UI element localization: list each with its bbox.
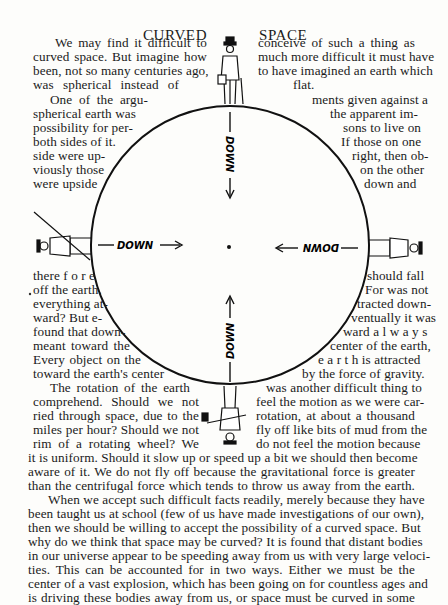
text-line: was spherical instead of: [33, 78, 179, 92]
man-left-side-icon: [34, 212, 91, 260]
text-line: One of the argu-: [50, 93, 148, 107]
text-line: side were up-: [33, 149, 105, 163]
text-line: much more difficult it must have: [258, 50, 415, 64]
text-line: viously those: [33, 163, 99, 177]
text-line: found that down-: [33, 325, 113, 339]
text-line: ried through space, due to the: [33, 409, 199, 423]
text-line: why do we think that space may be curved…: [28, 535, 415, 549]
text-line: ties. This can be accounted for in two w…: [28, 563, 415, 577]
text-line: in our universe appear to be speeding aw…: [28, 549, 415, 563]
text-line: Every object on the: [33, 353, 141, 367]
text-line: everything at-: [33, 297, 102, 311]
text-line: When we accept such difficult facts read…: [48, 493, 415, 507]
text-line: on the other: [360, 163, 415, 177]
text-line: there f o r e: [33, 269, 90, 283]
text-line: comprehend. Should we not: [33, 395, 199, 409]
text-line: If those on one: [341, 135, 415, 149]
text-line: For was not: [365, 283, 415, 297]
text-line: conceive of such a thing as: [258, 36, 415, 50]
down-label-left: DOWN: [117, 240, 154, 251]
down-arrow-top: DOWN: [224, 112, 235, 198]
man-standing-top-icon: [218, 37, 243, 104]
text-line: it is uniform. Should it slow up or spee…: [28, 451, 415, 465]
down-label-right: DOWN: [302, 242, 339, 253]
text-line: center of the earth,: [330, 339, 415, 353]
text-line: to have imagined an earth which: [258, 64, 415, 78]
text-line: e a r t h is attracted: [318, 353, 415, 367]
text-line: flat.: [293, 78, 323, 92]
text-line: The rotation of the earth: [50, 381, 190, 395]
text-line: miles per hour? Should we not: [33, 423, 199, 437]
text-line: been, not so many centuries ago,: [33, 64, 207, 78]
text-line: do not feel the motion because: [256, 437, 415, 451]
center-dot: [227, 245, 231, 249]
text-line: ward a l w a y s: [343, 325, 415, 339]
text-line: been taught us at school (few of us have…: [28, 507, 415, 521]
text-line: spherical earth was: [33, 107, 131, 121]
text-line: the apparent im-: [330, 107, 415, 121]
down-arrow-bottom: DOWN: [225, 296, 236, 382]
text-line: both sides of it.: [33, 135, 113, 149]
down-arrow-right: DOWN: [276, 242, 358, 253]
text-line: aware of it. We do not fly off because t…: [28, 465, 415, 479]
man-right-side-icon: [369, 238, 422, 258]
text-line: We may find it difficult to: [55, 36, 207, 50]
text-line: tracted down-: [357, 297, 415, 311]
text-line: off the earth.: [33, 283, 98, 297]
text-line: curved space. But imagine how: [33, 50, 207, 64]
text-line: feel the motion as we were car-: [256, 395, 415, 409]
text-line: fly off like bits of mud from the: [256, 423, 415, 437]
text-line: is driving these bodies away from us, or…: [28, 591, 415, 605]
text-line: possibility for per-: [33, 121, 119, 135]
text-line: than the centrifugal force which tends t…: [28, 479, 415, 493]
text-line: right, then ob-: [352, 149, 415, 163]
text-line: then we should be willing to accept the …: [28, 521, 415, 535]
down-label-bottom: DOWN: [225, 322, 236, 359]
text-line: toward the earth's center: [33, 367, 148, 381]
text-line: was another difficult thing to: [266, 381, 415, 395]
text-line: ward? But e-: [33, 311, 101, 325]
text-line: by the force of gravity.: [302, 367, 415, 381]
text-line: ments given against a: [312, 93, 415, 107]
text-line: rim of a rotating wheel? We: [33, 437, 199, 451]
text-line: center of a vast explosion, which has be…: [28, 577, 415, 591]
text-line: meant toward the: [33, 339, 130, 353]
man-upside-down-bottom-icon: [202, 386, 246, 444]
down-arrow-left: DOWN: [98, 240, 182, 251]
ink-speck: [29, 293, 31, 295]
text-line: sons to live on: [343, 121, 415, 135]
text-line: were upside: [33, 177, 94, 191]
text-line: ventually it was: [351, 311, 415, 325]
text-line: should fall: [367, 269, 415, 283]
text-line: down and: [364, 177, 415, 191]
down-label-top: DOWN: [224, 136, 235, 173]
text-line: rotation, at about a thousand: [256, 409, 415, 423]
